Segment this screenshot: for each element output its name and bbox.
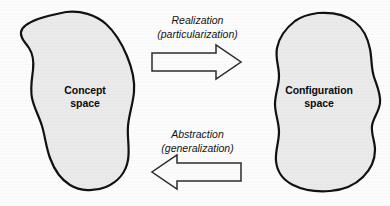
abstraction-arrow-label: Abstraction (generalization) [140, 128, 255, 155]
realization-label-line-2: (particularization) [140, 28, 255, 42]
configuration-space-label-line-2: space [276, 97, 362, 110]
realization-label-line-1: Realization [140, 14, 255, 28]
configuration-space-label: Configuration space [276, 84, 362, 109]
abstraction-label-line-2: (generalization) [140, 142, 255, 156]
abstraction-arrow-shape [152, 155, 241, 189]
concept-space-label-line-2: space [47, 97, 123, 110]
concept-space-label: Concept space [47, 84, 123, 109]
concept-space-label-line-1: Concept [47, 84, 123, 97]
diagram-canvas: Concept space Configuration space Realiz… [0, 0, 390, 206]
realization-arrow-shape [152, 45, 241, 79]
abstraction-label-line-1: Abstraction [140, 128, 255, 142]
realization-arrow-label: Realization (particularization) [140, 14, 255, 41]
configuration-space-label-line-1: Configuration [276, 84, 362, 97]
